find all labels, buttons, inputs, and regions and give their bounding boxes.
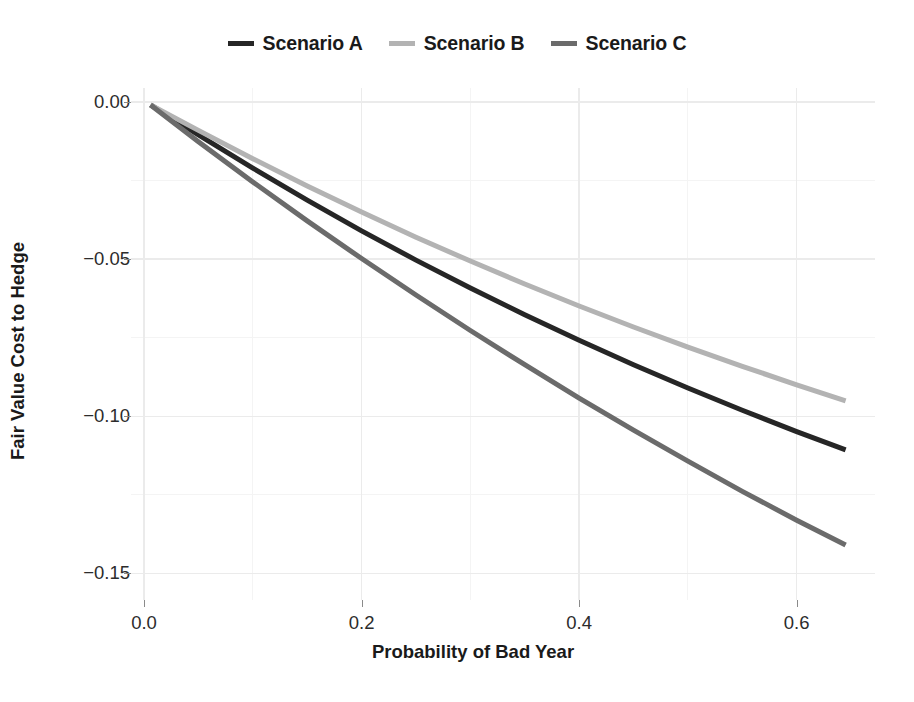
x-tick-label-1: 0.2 bbox=[322, 612, 402, 634]
x-tick-label-2: 0.4 bbox=[539, 612, 619, 634]
x-tick-mark-3 bbox=[797, 600, 798, 607]
chart-figure: Scenario A Scenario B Scenario C Fair Va… bbox=[0, 0, 914, 702]
data-series-layer bbox=[151, 105, 846, 545]
x-tick-mark-0 bbox=[144, 600, 145, 607]
series-line-scenario-b bbox=[151, 105, 846, 401]
x-tick-label-0: 0.0 bbox=[104, 612, 184, 634]
y-tick-mark-3 bbox=[124, 573, 131, 574]
x-tick-label-3: 0.6 bbox=[757, 612, 837, 634]
x-tick-mark-2 bbox=[579, 600, 580, 607]
series-line-scenario-a bbox=[151, 105, 846, 450]
plot-svg bbox=[131, 88, 875, 600]
plot-panel bbox=[131, 88, 875, 600]
y-tick-mark-0 bbox=[124, 102, 131, 103]
y-tick-mark-2 bbox=[124, 416, 131, 417]
y-tick-mark-1 bbox=[124, 259, 131, 260]
major-gridlines bbox=[131, 88, 875, 600]
x-axis-title: Probability of Bad Year bbox=[138, 641, 808, 663]
minor-gridlines bbox=[131, 88, 875, 600]
x-tick-mark-1 bbox=[362, 600, 363, 607]
